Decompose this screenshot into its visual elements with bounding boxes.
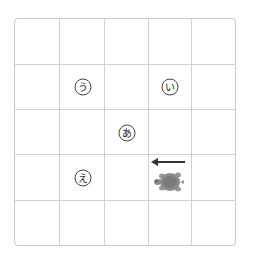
grid-line <box>148 18 149 246</box>
grid-line <box>14 200 236 201</box>
turtle-icon <box>154 168 186 196</box>
grid-line <box>14 109 236 110</box>
grid-line <box>104 18 105 246</box>
label-a: あ <box>119 125 136 142</box>
label-u: う <box>75 79 92 96</box>
grid-line <box>14 154 236 155</box>
grid-line <box>59 18 60 246</box>
label-i: い <box>162 79 179 96</box>
grid-line <box>191 18 192 246</box>
arrow-left-icon <box>150 156 186 168</box>
label-e: え <box>75 170 92 187</box>
grid-line <box>14 64 236 65</box>
